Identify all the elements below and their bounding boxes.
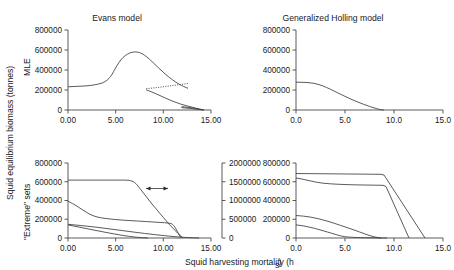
- y-axis-label-row1-text: MLE: [22, 58, 32, 76]
- top-right-ytick-2: 400000: [263, 66, 291, 75]
- bottom-left-ytick-3: 600000: [35, 178, 63, 187]
- curve-c: [68, 224, 199, 238]
- top-right-xtick-1: 5.0: [339, 116, 351, 125]
- bottom-left-xtick-0: 0.00: [60, 244, 76, 253]
- top-left-ytick-0: 0: [57, 106, 62, 115]
- curve-upper-branch: [68, 52, 188, 88]
- top-right-xtick-3: 15.0: [435, 116, 451, 125]
- top-right-ytick-0: 0: [285, 106, 290, 115]
- bottom-left-x-ticks: 0.00 5.00 10.00 15.00: [60, 238, 222, 253]
- right-axis-arrow-icon: [146, 186, 168, 190]
- bottom-left-ytick-0: 0: [57, 234, 62, 243]
- panel-bottom-left: 0 200000 400000 600000 800000 0.00 5.00 …: [35, 159, 262, 253]
- top-left-y-ticks: 0 200000 400000 600000 800000: [35, 26, 68, 115]
- top-right-xtick-2: 10.0: [386, 116, 402, 125]
- top-right-y-ticks: 0 200000 400000 600000 800000: [263, 26, 296, 115]
- bottom-left-right-ytick-0: 0: [229, 234, 234, 243]
- x-axis-label-close-paren: ): [279, 257, 282, 267]
- top-left-xtick-0: 0.00: [60, 116, 76, 125]
- bottom-left-right-ytick-4: 2000000: [229, 159, 261, 168]
- bottom-right-ytick-1: 200000: [263, 215, 291, 224]
- top-right-curves: [296, 82, 384, 110]
- top-left-ytick-1: 200000: [35, 86, 63, 95]
- bottom-left-right-ytick-2: 1000000: [229, 196, 261, 205]
- top-right-xtick-0: 0.0: [290, 116, 302, 125]
- bottom-left-xtick-1: 5.00: [108, 244, 124, 253]
- bottom-right-xtick-0: 0.0: [290, 244, 302, 253]
- panel-top-left-title: Evans model: [92, 13, 142, 23]
- bottom-left-secondary-y-ticks: 0 500000 1000000 1500000 2000000: [222, 159, 261, 243]
- figure-svg: Squid equilibrium biomass (tonnes) MLE "…: [0, 0, 454, 270]
- bottom-right-curves: [296, 174, 425, 239]
- bottom-right-ytick-3: 600000: [263, 178, 291, 187]
- curve-b: [68, 201, 181, 238]
- bottom-left-xtick-3: 15.00: [201, 244, 222, 253]
- top-right-x-ticks: 0.0 5.0 10.0 15.0: [290, 110, 451, 125]
- bottom-left-y-ticks: 0 200000 400000 600000 800000: [35, 159, 68, 243]
- panel-bottom-right: 0 200000 400000 600000 800000 0.0 5.0 10…: [263, 159, 452, 253]
- bottom-right-xtick-1: 5.0: [339, 244, 351, 253]
- curve-d: [68, 225, 148, 238]
- curve-d: [296, 225, 387, 238]
- bottom-left-ytick-1: 200000: [35, 215, 63, 224]
- top-right-ytick-3: 600000: [263, 46, 291, 55]
- top-left-xtick-3: 15.00: [201, 116, 222, 125]
- x-axis-label: Squid harvesting mortality (h s ): [185, 257, 294, 270]
- y-axis-label-outer: Squid equilibrium biomass (tonnes): [5, 66, 15, 200]
- bottom-right-xtick-3: 15.0: [435, 244, 451, 253]
- bottom-left-ytick-4: 800000: [35, 159, 63, 168]
- top-left-ytick-3: 600000: [35, 46, 63, 55]
- bottom-right-ytick-4: 800000: [263, 159, 291, 168]
- y-axis-label-row2-text: "Extreme" sets: [22, 184, 32, 240]
- top-left-ytick-4: 800000: [35, 26, 63, 35]
- bottom-right-y-ticks: 0 200000 400000 600000 800000: [263, 159, 296, 243]
- curve-equilibrium-biomass: [296, 82, 384, 110]
- top-left-x-ticks: 0.00 5.00 10.00 15.00: [60, 110, 222, 125]
- figure-container: Squid equilibrium biomass (tonnes) MLE "…: [0, 0, 454, 270]
- bottom-left-right-ytick-1: 500000: [229, 215, 257, 224]
- top-left-curves: [68, 52, 204, 110]
- top-right-ytick-4: 800000: [263, 26, 291, 35]
- top-left-xtick-2: 10.00: [153, 116, 174, 125]
- y-axis-label-outer-text: Squid equilibrium biomass (tonnes): [5, 66, 15, 200]
- y-axis-label-row2: "Extreme" sets: [22, 184, 32, 240]
- bottom-right-ytick-2: 400000: [263, 196, 291, 205]
- panel-top-right-title: Generalized Holling model: [283, 13, 384, 23]
- bottom-left-curves: [68, 180, 199, 238]
- bottom-left-xtick-2: 10.00: [153, 244, 174, 253]
- y-axis-label-row1: MLE: [22, 58, 32, 76]
- top-left-xtick-1: 5.00: [108, 116, 124, 125]
- top-right-ytick-1: 200000: [263, 86, 291, 95]
- curve-lower-branch: [146, 90, 203, 110]
- bottom-right-x-ticks: 0.0 5.0 10.0 15.0: [290, 238, 451, 253]
- panel-top-left: Evans model 0 200000 400000 600000 80000…: [35, 13, 222, 125]
- top-left-ytick-2: 400000: [35, 66, 63, 75]
- bottom-left-ytick-2: 400000: [35, 196, 63, 205]
- panel-top-right: Generalized Holling model 0 200000 40000…: [263, 13, 452, 125]
- bottom-right-ytick-0: 0: [285, 234, 290, 243]
- bottom-left-right-ytick-3: 1500000: [229, 178, 261, 187]
- bottom-right-xtick-2: 10.0: [386, 244, 402, 253]
